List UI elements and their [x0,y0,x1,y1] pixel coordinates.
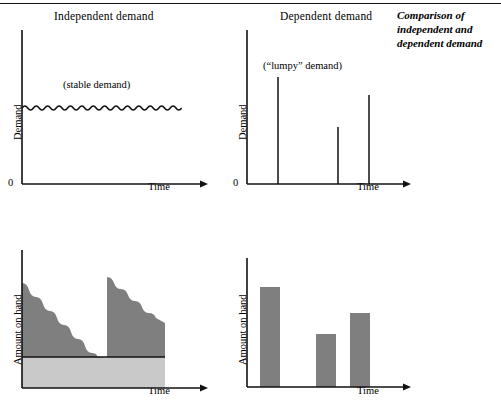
inventory-bar-1 [260,287,280,387]
x-axis-arrow-bottom-right [403,384,411,391]
inventory-bar-2 [316,334,336,387]
bottom-right-chart-graphics [0,0,501,403]
figure-panel: Comparison of independent and dependent … [0,0,501,403]
inventory-bar-3 [350,313,370,387]
